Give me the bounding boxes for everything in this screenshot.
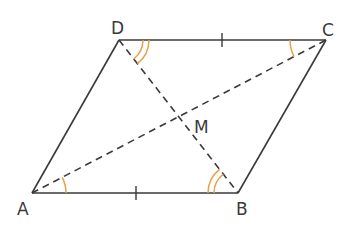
center-label-m: M xyxy=(194,117,209,137)
angle-arc-c xyxy=(290,40,294,57)
angle-arc-d-inner xyxy=(134,40,143,59)
diagram-svg: D C A B M xyxy=(0,0,352,227)
diagonal-db xyxy=(119,40,238,193)
vertex-label-a: A xyxy=(17,199,29,219)
vertex-label-c: C xyxy=(322,20,334,40)
angle-arc-b-inner xyxy=(214,174,223,193)
vertex-label-b: B xyxy=(236,199,248,219)
vertex-label-d: D xyxy=(111,18,124,38)
parallelogram-diagram: D C A B M xyxy=(0,0,352,227)
angle-arc-a xyxy=(62,177,66,193)
